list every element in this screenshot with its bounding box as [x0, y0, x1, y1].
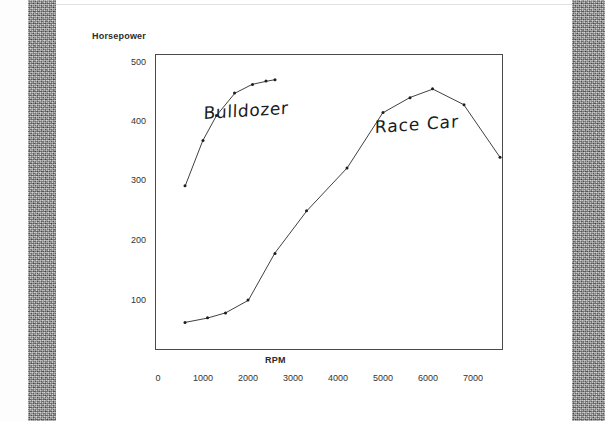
data-point-marker: [274, 78, 277, 81]
data-point-marker: [499, 156, 502, 159]
data-point-marker: [274, 252, 277, 255]
data-point-marker: [206, 316, 209, 319]
horsepower-rpm-chart: Horsepower 500 400 300 200 100 0 1000 20…: [0, 0, 605, 421]
data-point-marker: [382, 111, 385, 114]
series-line: [185, 80, 275, 186]
series-layer: [0, 0, 605, 421]
data-point-marker: [463, 103, 466, 106]
series-bulldozer: [184, 78, 277, 187]
data-point-marker: [184, 321, 187, 324]
scanned-page: Horsepower 500 400 300 200 100 0 1000 20…: [0, 0, 605, 421]
data-point-marker: [184, 184, 187, 187]
data-point-marker: [224, 312, 227, 315]
data-point-marker: [305, 209, 308, 212]
data-point-marker: [202, 139, 205, 142]
data-point-marker: [251, 83, 254, 86]
data-point-marker: [409, 96, 412, 99]
data-point-marker: [431, 87, 434, 90]
data-point-marker: [346, 166, 349, 169]
data-point-marker: [265, 80, 268, 83]
data-point-marker: [233, 91, 236, 94]
data-point-marker: [247, 299, 250, 302]
